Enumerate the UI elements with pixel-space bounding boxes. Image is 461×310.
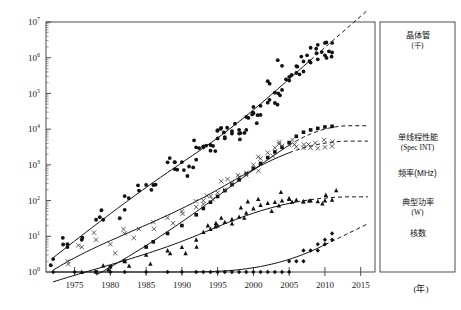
x-tick-label: 1980 [101, 280, 120, 290]
x-tick-label: 1985 [137, 280, 156, 290]
data-point-filled-circle [309, 46, 313, 50]
data-point-filled-circle [268, 98, 272, 102]
data-point-filled-circle [149, 188, 153, 192]
data-point-filled-circle [186, 174, 190, 178]
data-point-filled-circle [100, 208, 104, 212]
data-point-filled-circle [182, 168, 186, 172]
x-tick-label: 2005 [280, 280, 299, 290]
data-point-filled-circle [315, 51, 319, 55]
data-point-filled-circle [144, 183, 148, 187]
data-point-filled-circle [247, 116, 251, 120]
data-point-filled-circle [175, 168, 179, 172]
x-tick-label: 1995 [209, 280, 228, 290]
data-point-filled-circle [61, 243, 65, 247]
data-point-filled-circle [284, 77, 288, 81]
data-point-filled-circle [302, 70, 306, 74]
data-point-filled-circle [308, 59, 312, 63]
data-point-filled-circle [255, 121, 259, 125]
data-point-filled-circle [233, 122, 237, 126]
data-point-filled-circle [127, 196, 131, 200]
data-point-filled-square [194, 213, 198, 217]
legend-label-2: 频率(MHz) [398, 168, 437, 178]
data-point-filled-circle [316, 43, 320, 47]
data-point-filled-square [302, 130, 306, 134]
data-point-filled-circle [204, 144, 208, 148]
data-point-filled-circle [173, 160, 177, 164]
data-point-filled-circle [276, 58, 280, 62]
legend-label-1: 单线程性能 [398, 132, 438, 142]
data-point-filled-circle [256, 113, 260, 117]
data-point-filled-circle [118, 216, 122, 220]
data-point-filled-circle [213, 149, 217, 153]
data-point-filled-circle [66, 242, 70, 246]
data-point-filled-circle [216, 137, 220, 141]
data-point-filled-circle [101, 218, 105, 222]
data-point-filled-square [144, 245, 148, 249]
data-point-filled-circle [137, 189, 141, 193]
data-point-filled-square [151, 240, 155, 244]
data-point-filled-circle [290, 73, 294, 77]
data-point-filled-circle [299, 55, 303, 59]
data-point-filled-circle [280, 64, 284, 68]
data-point-filled-circle [98, 215, 102, 219]
data-point-filled-circle [80, 236, 84, 240]
data-point-filled-circle [51, 257, 55, 261]
data-point-filled-circle [209, 149, 213, 153]
data-point-filled-circle [222, 131, 226, 135]
data-point-filled-circle [268, 82, 272, 86]
data-point-filled-circle [259, 104, 263, 108]
data-point-filled-circle [191, 166, 195, 170]
data-point-filled-circle [219, 126, 223, 130]
data-point-filled-circle [123, 194, 127, 198]
data-point-filled-circle [215, 129, 219, 133]
data-point-filled-circle [302, 59, 306, 63]
data-point-filled-square [202, 207, 206, 211]
data-point-filled-circle [225, 126, 229, 130]
data-point-filled-circle [194, 158, 198, 162]
x-tick-label: 2010 [316, 280, 335, 290]
legend-label-4: 核数 [410, 228, 426, 238]
data-point-filled-circle [325, 56, 329, 60]
data-point-filled-circle [251, 110, 255, 114]
data-point-filled-square [295, 135, 299, 139]
x-tick-label: 2000 [244, 280, 263, 290]
x-tick-label: 2015 [352, 280, 371, 290]
data-point-filled-square [216, 195, 220, 199]
legend-label-0: 晶体管 [406, 30, 430, 40]
data-point-filled-circle [324, 41, 328, 45]
data-point-filled-square [266, 156, 270, 160]
data-point-filled-circle [239, 131, 243, 135]
data-point-filled-circle [305, 53, 309, 57]
data-point-filled-circle [238, 138, 242, 142]
data-point-filled-circle [280, 88, 284, 92]
data-point-filled-circle [230, 129, 234, 133]
data-point-filled-square [330, 125, 334, 129]
data-point-filled-circle [327, 49, 331, 53]
data-point-filled-square [166, 232, 170, 236]
data-point-filled-circle [211, 144, 215, 148]
data-point-filled-circle [192, 138, 196, 142]
microprocessor-trend-chart: 100101102103104105106107 197519801985199… [0, 0, 461, 310]
data-point-filled-circle [252, 105, 256, 109]
data-point-filled-circle [330, 41, 334, 45]
data-point-filled-circle [187, 165, 191, 169]
data-point-filled-circle [123, 208, 127, 212]
data-point-filled-square [180, 224, 184, 228]
legend-sublabel-3: (W) [412, 208, 424, 217]
legend-sublabel-1: (Spec INT) [401, 143, 435, 152]
data-point-filled-circle [166, 160, 170, 164]
data-point-filled-circle [154, 183, 158, 187]
data-point-filled-circle [136, 183, 140, 187]
data-point-filled-circle [330, 55, 334, 59]
data-point-filled-circle [298, 72, 302, 76]
data-point-filled-circle [223, 135, 227, 139]
data-point-filled-circle [316, 57, 320, 61]
x-axis-unit-label: (年) [414, 283, 429, 294]
data-point-filled-square [316, 127, 320, 131]
data-point-filled-circle [276, 91, 280, 95]
data-point-filled-circle [197, 146, 201, 150]
legend-label-3: 典型功率 [402, 197, 434, 207]
data-point-filled-circle [168, 156, 172, 160]
data-point-filled-circle [61, 236, 65, 240]
data-point-filled-circle [320, 50, 324, 54]
